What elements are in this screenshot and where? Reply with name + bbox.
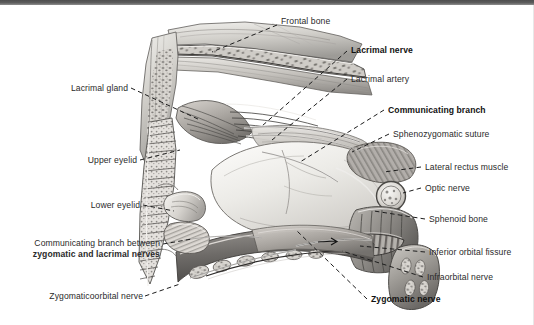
label-zygomatic-nerve: Zygomatic nerve <box>371 294 441 304</box>
anatomy-figure: Frontal bone Lacrimal nerve Lacrimal art… <box>0 0 534 325</box>
label-upper-eyelid: Upper eyelid <box>0 155 137 165</box>
label-infraorbital-nerve: Infraorbital nerve <box>427 272 493 282</box>
label-communicating-branch: Communicating branch <box>388 105 486 115</box>
label-optic-nerve: Optic nerve <box>425 183 470 193</box>
label-communicating-branch-between: Communicating branch between zygomatic a… <box>0 238 160 260</box>
label-lower-eyelid: Lower eyelid <box>0 200 140 210</box>
label-cbb-line1: Communicating branch between <box>34 238 160 248</box>
label-lateral-rectus-muscle: Lateral rectus muscle <box>425 162 508 172</box>
label-lacrimal-gland: Lacrimal gland <box>0 83 128 93</box>
label-zygomaticoorbital-nerve: Zygomaticoorbital nerve <box>0 291 143 301</box>
label-sphenozygomatic-suture: Sphenozygomatic suture <box>393 129 489 139</box>
label-frontal-bone: Frontal bone <box>281 16 330 26</box>
label-lacrimal-artery: Lacrimal artery <box>351 74 409 84</box>
label-sphenoid-bone: Sphenoid bone <box>429 214 488 224</box>
label-cbb-line2: zygomatic and lacrimal nerves <box>33 249 160 259</box>
label-lacrimal-nerve: Lacrimal nerve <box>351 45 413 55</box>
label-inferior-orbital-fissure: Inferior orbital fissure <box>429 247 511 257</box>
